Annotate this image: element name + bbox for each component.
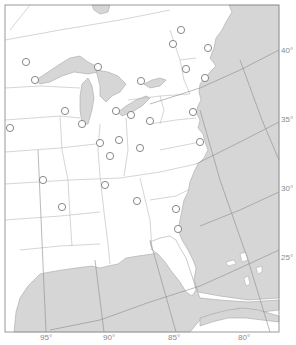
city-marker-circle[interactable] — [61, 107, 68, 114]
city-marker-circle[interactable] — [6, 124, 13, 131]
city-marker-circle[interactable] — [96, 139, 103, 146]
city-marker-circle[interactable] — [127, 111, 134, 118]
city-marker-circle[interactable] — [189, 108, 196, 115]
city-marker-circle[interactable] — [106, 152, 113, 159]
city-marker-circle[interactable] — [182, 65, 189, 72]
city-marker-circle[interactable] — [31, 76, 38, 83]
city-marker-circle[interactable] — [174, 225, 181, 232]
longitude-label-80: 80° — [238, 333, 250, 342]
longitude-label-90: 90° — [103, 333, 115, 342]
city-marker-circle[interactable] — [22, 58, 29, 65]
city-marker-circle[interactable] — [146, 117, 153, 124]
city-marker-circle[interactable] — [78, 120, 85, 127]
city-marker-circle[interactable] — [112, 107, 119, 114]
city-marker-circle[interactable] — [204, 44, 211, 51]
latitude-label-40: 40° — [281, 46, 293, 55]
city-marker-circle[interactable] — [115, 136, 122, 143]
city-marker-circle[interactable] — [177, 26, 184, 33]
longitude-label-85: 85° — [168, 333, 180, 342]
latitude-label-30: 30° — [281, 184, 293, 193]
city-marker-circle[interactable] — [94, 63, 101, 70]
city-marker-circle[interactable] — [133, 197, 140, 204]
latitude-label-35: 35° — [281, 115, 293, 124]
city-marker-circle[interactable] — [172, 205, 179, 212]
map-canvas: 40° 35° 30° 25° 95° 90° 85° 80° — [0, 0, 296, 345]
city-marker-circle[interactable] — [136, 144, 143, 151]
latitude-label-25: 25° — [281, 253, 293, 262]
city-marker-circle[interactable] — [196, 138, 203, 145]
city-marker-circle[interactable] — [201, 74, 208, 81]
longitude-label-95: 95° — [40, 333, 52, 342]
city-marker-circle[interactable] — [169, 40, 176, 47]
city-marker-circle[interactable] — [101, 181, 108, 188]
city-marker-circle[interactable] — [137, 77, 144, 84]
city-marker-circle[interactable] — [39, 176, 46, 183]
city-marker-circle[interactable] — [58, 203, 65, 210]
